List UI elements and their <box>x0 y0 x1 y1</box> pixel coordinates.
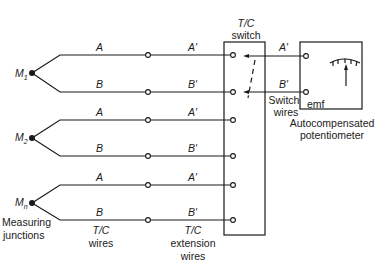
ext-label-mn-b: B′ <box>188 206 197 218</box>
tc-switch-box[interactable] <box>224 42 265 235</box>
switch-arrow-b-icon <box>243 90 249 94</box>
ext-wires-label-line2: extension <box>171 237 216 249</box>
ext-label-mn-a: A′ <box>188 171 197 183</box>
ext-label-m1-b: B′ <box>188 78 197 90</box>
junction-mn-wires <box>32 185 233 220</box>
junction-m1-wires <box>32 55 233 92</box>
wire-label-m2-a: A <box>96 106 103 118</box>
junction-label-m2: M2 <box>15 131 28 148</box>
junction-m2-wires <box>32 120 233 156</box>
wire-label-m1-b: B <box>96 78 103 90</box>
junction-dot-mn <box>29 200 35 206</box>
tc-switch-label-line2: switch <box>231 29 260 41</box>
potentiometer-label-line1: Autocompensated <box>290 117 375 129</box>
needle-arrowhead-icon <box>344 64 348 70</box>
switch-wires-label-line1: Switch <box>269 94 300 106</box>
ext-label-m2-a: A′ <box>188 106 197 118</box>
switch-arrow-a-icon <box>243 54 249 58</box>
tc-wires-label-line2: wires <box>89 237 114 249</box>
wire-label-m1-a: A <box>96 41 103 53</box>
ext-label-m1-a: A′ <box>188 41 197 53</box>
measuring-junctions-label-line2: junctions <box>3 229 44 241</box>
tc-switch-label-line1: T/C <box>238 17 255 29</box>
ext-wires-label-line1: T/C <box>185 224 202 236</box>
potentiometer-label-line2: potentiometer <box>300 129 364 141</box>
emf-label: emf <box>307 98 325 110</box>
measuring-junctions-label-line1: Measuring <box>2 216 51 228</box>
switch-out-label-a: A′ <box>279 41 288 53</box>
junction-label-mn: Mn <box>15 196 28 213</box>
junction-label-m1: M1 <box>15 67 28 84</box>
junction-dot-m1 <box>29 70 35 76</box>
switch-out-label-b: B′ <box>279 78 288 90</box>
ext-wires-label-line3: wires <box>181 250 206 262</box>
ext-label-m2-b: B′ <box>188 142 197 154</box>
wire-label-mn-b: B <box>96 206 103 218</box>
wire-label-m2-b: B <box>96 142 103 154</box>
tc-wires-label-line1: T/C <box>93 224 110 236</box>
junction-dot-m2 <box>29 135 35 141</box>
wire-label-mn-a: A <box>96 171 103 183</box>
